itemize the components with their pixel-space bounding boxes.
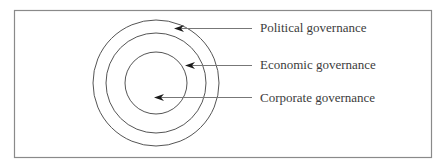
- label-corporate-governance: Corporate governance: [260, 90, 375, 106]
- arrows: [154, 25, 252, 101]
- label-economic-governance: Economic governance: [260, 57, 376, 73]
- inner-circle: [125, 52, 187, 114]
- diagram-frame: [15, 11, 432, 158]
- concentric-circles: [93, 20, 219, 146]
- governance-diagram: [0, 0, 440, 165]
- middle-circle: [106, 33, 206, 133]
- label-political-governance: Political governance: [260, 20, 367, 36]
- outer-circle: [93, 20, 219, 146]
